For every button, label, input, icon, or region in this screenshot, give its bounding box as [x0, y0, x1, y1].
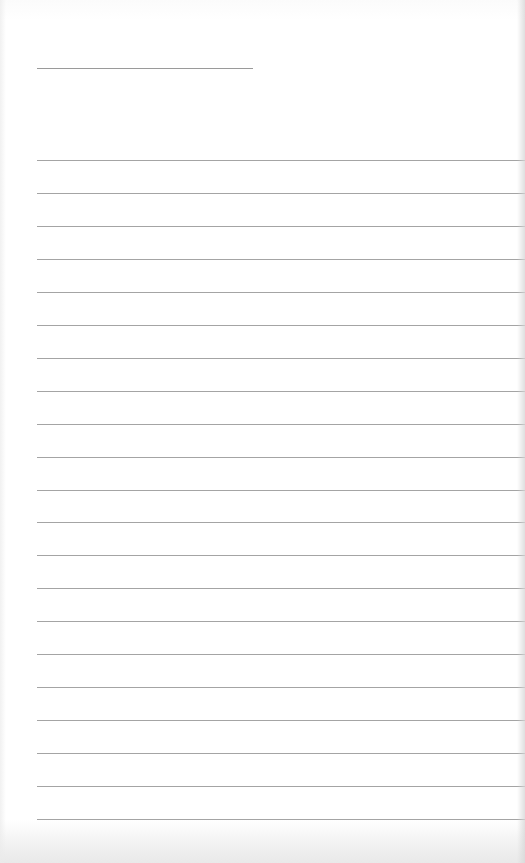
ruled-line — [37, 753, 525, 754]
ruled-line — [37, 786, 525, 787]
ruled-line — [37, 522, 525, 523]
ruled-line — [37, 193, 525, 194]
ruled-line — [37, 621, 525, 622]
ruled-line — [37, 226, 525, 227]
ruled-line — [37, 424, 525, 425]
ruled-line — [37, 819, 525, 820]
title-underline — [37, 68, 253, 69]
ruled-line — [37, 292, 525, 293]
ruled-line — [37, 687, 525, 688]
lined-paper-page — [0, 0, 525, 863]
ruled-line — [37, 457, 525, 458]
ruled-line — [37, 160, 525, 161]
ruled-line — [37, 325, 525, 326]
ruled-line — [37, 391, 525, 392]
ruled-line — [37, 490, 525, 491]
ruled-line — [37, 358, 525, 359]
ruled-line — [37, 720, 525, 721]
ruled-line — [37, 555, 525, 556]
paper-right-edge-shadow — [517, 0, 525, 863]
ruled-line — [37, 259, 525, 260]
ruled-line — [37, 588, 525, 589]
paper-left-edge-shadow — [0, 0, 6, 863]
ruled-line — [37, 654, 525, 655]
